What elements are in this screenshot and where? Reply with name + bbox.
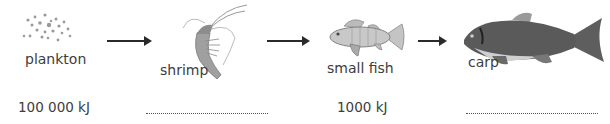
carp-energy-blank (466, 113, 598, 114)
arrow-small-fish-to-carp (418, 40, 445, 42)
arrow-shrimp-to-small-fish (267, 40, 308, 42)
shrimp-energy-blank (146, 113, 268, 114)
small-fish-energy: 1000 kJ (337, 99, 387, 115)
plankton-label: plankton (25, 51, 86, 67)
arrow-plankton-to-shrimp (107, 40, 150, 42)
plankton-energy: 100 000 kJ (18, 99, 90, 115)
plankton-image (18, 12, 80, 46)
small-fish-label: small fish (327, 60, 394, 76)
shrimp-label: shrimp (160, 62, 208, 78)
small-fish-image (322, 16, 412, 60)
carp-label: carp (468, 54, 499, 70)
